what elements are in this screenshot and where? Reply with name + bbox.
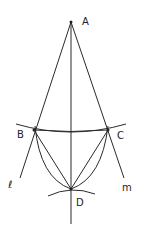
line-m [71,22,124,178]
point-d [70,188,73,191]
label-l: ℓ [8,179,12,190]
line-l [20,22,71,178]
segment-bd [34,130,71,189]
point-b [33,129,36,132]
segment-cd [71,130,108,189]
label-b: B [17,129,24,140]
label-d: D [76,197,84,208]
point-c [107,129,110,132]
label-m: m [122,182,132,193]
label-a: A [82,16,89,27]
point-a [70,21,73,24]
label-c: C [117,130,124,141]
geometry-diagram: A B C D ℓ m [0,0,143,229]
